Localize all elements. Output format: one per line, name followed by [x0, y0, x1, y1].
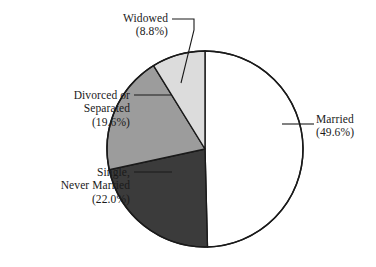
pie-slice-married[interactable] [205, 51, 303, 247]
pie-label-single-value: (22.0%) [2, 193, 130, 206]
pie-label-married-name: Married [316, 113, 376, 126]
pie-chart-figure: Widowed (8.8%) Divorced or Separated (19… [0, 0, 376, 267]
pie-label-single-name-line2: Never Married [2, 179, 130, 192]
pie-label-divorced-value: (19.6%) [2, 116, 130, 129]
pie-label-married-value: (49.6%) [316, 126, 376, 139]
pie-label-divorced-name-line2: Separated [2, 102, 130, 115]
pie-label-widowed: Widowed (8.8%) [46, 12, 168, 39]
pie-label-divorced-or-separated: Divorced or Separated (19.6%) [2, 89, 130, 129]
pie-label-married: Married (49.6%) [316, 113, 376, 140]
pie-label-single-name-line1: Single, [2, 166, 130, 179]
pie-label-widowed-value: (8.8%) [46, 25, 168, 38]
pie-label-divorced-name-line1: Divorced or [2, 89, 130, 102]
pie-label-single-never-married: Single, Never Married (22.0%) [2, 166, 130, 206]
pie-label-widowed-name: Widowed [46, 12, 168, 25]
